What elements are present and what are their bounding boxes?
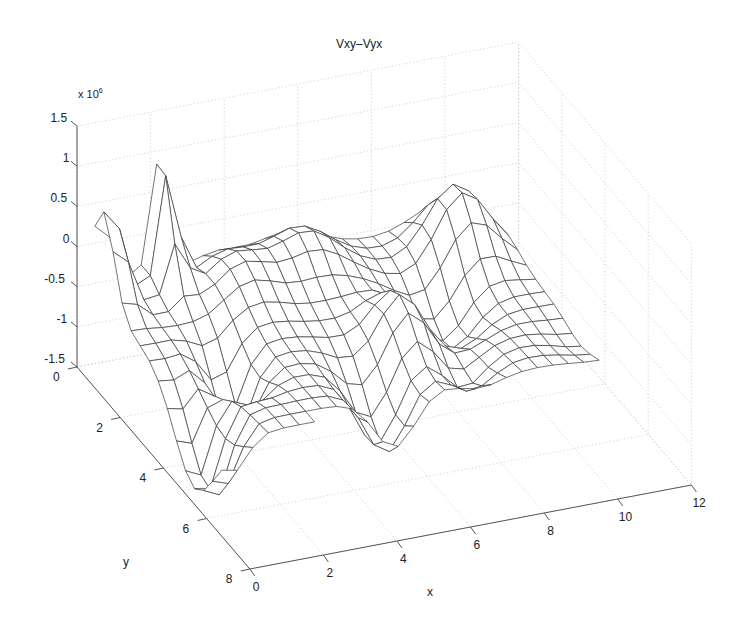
x-tick-label: 12 <box>692 496 705 510</box>
z-multiplier-exponent: 6 <box>99 87 103 94</box>
x-tick-label: 6 <box>474 538 481 552</box>
z-tick-label: 0 <box>63 232 70 246</box>
y-tick-label: 2 <box>96 421 103 435</box>
z-tick-label: -0.5 <box>44 272 65 286</box>
x-axis-label: x <box>427 585 433 599</box>
y-axis-label: y <box>123 555 129 569</box>
y-tick-label: 8 <box>226 572 233 586</box>
z-tick-label: 1 <box>63 151 70 165</box>
chart-title: Vxy–Vyx <box>336 37 382 51</box>
x-tick-label: 2 <box>326 566 333 580</box>
surface-plot-figure: Vxy–Vyx x 106 x y 1.510.50-0.5-1-1.50246… <box>0 0 755 629</box>
y-tick-label: 4 <box>139 471 146 485</box>
z-tick-label: -1.5 <box>44 352 65 366</box>
z-axis-multiplier: x 106 <box>78 87 103 100</box>
surface-plot-canvas <box>0 0 755 629</box>
x-tick-label: 8 <box>547 524 554 538</box>
x-tick-label: 10 <box>619 510 632 524</box>
z-tick-label: 0.5 <box>50 191 67 205</box>
x-tick-label: 0 <box>253 580 260 594</box>
y-tick-label: 0 <box>53 370 60 384</box>
z-multiplier-base: x 10 <box>78 88 99 100</box>
y-tick-label: 6 <box>183 522 190 536</box>
z-tick-label: 1.5 <box>50 111 67 125</box>
wireframe-mesh <box>95 164 599 495</box>
x-tick-label: 4 <box>400 552 407 566</box>
z-tick-label: -1 <box>57 312 68 326</box>
